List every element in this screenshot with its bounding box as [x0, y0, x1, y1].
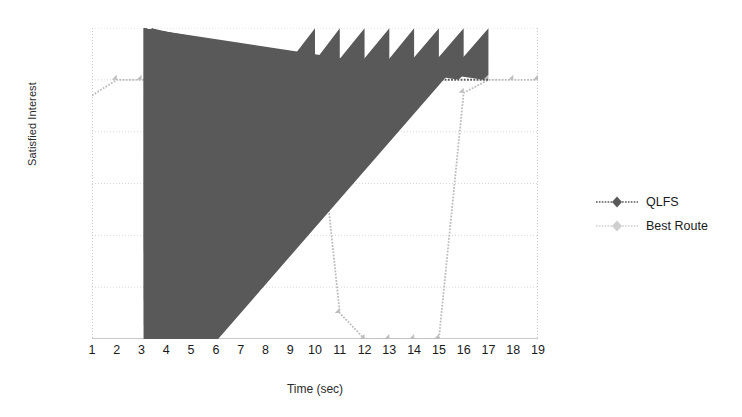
- chart-canvas: [92, 28, 538, 339]
- x-axis-title: Time (sec): [92, 382, 538, 396]
- chart-container: Satisfied Interest Time (sec) 0204060801…: [0, 0, 742, 417]
- legend-label-best-route: Best Route: [646, 219, 708, 233]
- legend-item-best-route: Best Route: [596, 214, 708, 238]
- x-tick-label: 19: [518, 343, 558, 357]
- y-axis-title: Satisfied Interest: [26, 44, 38, 204]
- legend-item-qlfs: QLFS: [596, 190, 708, 214]
- chart-legend: QLFS Best Route: [596, 190, 708, 238]
- plot-area: 020406080100120 123456789101112131415161…: [92, 28, 538, 339]
- legend-marker-icon: [596, 219, 638, 233]
- legend-marker-icon: [596, 195, 638, 209]
- legend-label-qlfs: QLFS: [646, 195, 679, 209]
